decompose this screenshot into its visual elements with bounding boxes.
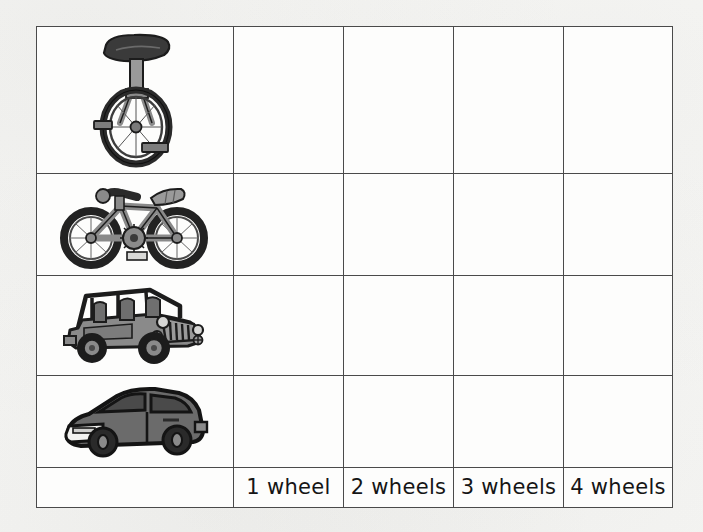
jeep-icon — [62, 284, 208, 368]
answer-cell-bicycle-3[interactable] — [454, 174, 564, 276]
vehicle-picture-cell-bicycle — [37, 174, 234, 276]
answer-cell-jeep-2[interactable] — [344, 276, 454, 376]
column-label-text: 4 wheels — [570, 475, 666, 499]
answer-cell-car-4[interactable] — [564, 376, 673, 468]
table-row-column-labels: 1 wheel 2 wheels 3 wheels 4 wheels — [37, 468, 673, 508]
wheels-sorting-worksheet-table: 1 wheel 2 wheels 3 wheels 4 wheels — [36, 26, 673, 508]
column-label-two-wheels: 2 wheels — [344, 468, 454, 508]
answer-cell-car-3[interactable] — [454, 376, 564, 468]
column-label-four-wheels: 4 wheels — [564, 468, 673, 508]
column-label-three-wheels: 3 wheels — [454, 468, 564, 508]
column-label-one-wheel: 1 wheel — [234, 468, 344, 508]
answer-cell-car-2[interactable] — [344, 376, 454, 468]
answer-cell-jeep-1[interactable] — [234, 276, 344, 376]
vehicle-picture-cell-unicycle — [37, 27, 234, 174]
table-row-jeep — [37, 276, 673, 376]
answer-cell-bicycle-1[interactable] — [234, 174, 344, 276]
answer-cell-bicycle-4[interactable] — [564, 174, 673, 276]
car-icon — [59, 384, 211, 460]
column-label-text: 3 wheels — [461, 475, 557, 499]
table-row-bicycle — [37, 174, 673, 276]
unicycle-icon — [80, 31, 190, 169]
answer-cell-unicycle-1[interactable] — [234, 27, 344, 174]
answer-cell-unicycle-4[interactable] — [564, 27, 673, 174]
bicycle-icon — [59, 180, 211, 270]
answer-cell-bicycle-2[interactable] — [344, 174, 454, 276]
column-label-text: 2 wheels — [351, 475, 447, 499]
answer-cell-unicycle-3[interactable] — [454, 27, 564, 174]
answer-cell-jeep-4[interactable] — [564, 276, 673, 376]
answer-cell-car-1[interactable] — [234, 376, 344, 468]
table-row-unicycle — [37, 27, 673, 174]
footer-empty-cell — [37, 468, 234, 508]
answer-cell-jeep-3[interactable] — [454, 276, 564, 376]
vehicle-picture-cell-jeep — [37, 276, 234, 376]
answer-cell-unicycle-2[interactable] — [344, 27, 454, 174]
column-label-text: 1 wheel — [246, 475, 330, 499]
vehicle-picture-cell-car — [37, 376, 234, 468]
table-row-car — [37, 376, 673, 468]
